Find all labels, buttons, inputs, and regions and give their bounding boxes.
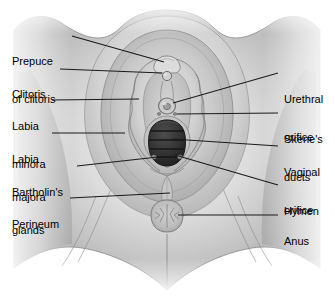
label-line: Vaginal [284,166,320,179]
leader-clitoris [60,69,162,73]
leader-prepuce-of-clitoris [72,36,164,62]
leader-perineum [70,193,170,198]
label-anus: Anus [284,210,309,273]
label-line: Anus [284,235,309,248]
anatomy-figure: Prepuce of clitoris Clitoris Labia minor… [0,0,335,296]
label-line: Urethral [284,93,323,106]
leader-urethral-orifice [173,73,278,103]
label-perineum: Perineum [12,193,59,256]
leader-vaginal-orifice [172,139,278,146]
leader-hymen [175,155,278,185]
leader-bartholins-glands [77,157,158,166]
label-line: Perineum [12,218,59,231]
leader-skenes-ducts [177,113,278,114]
leader-line-group [52,36,278,215]
leader-labia-minora [52,99,139,100]
